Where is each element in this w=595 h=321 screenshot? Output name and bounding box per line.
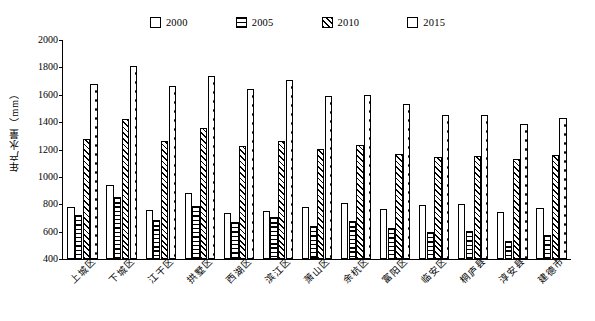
y-axis-tick-label: 800 — [43, 199, 58, 209]
bar-2000 — [419, 205, 426, 259]
bar-2005 — [114, 197, 121, 259]
y-axis-title: 年产水量（mm） — [9, 88, 25, 172]
bar-2000 — [67, 207, 74, 259]
bar-2010 — [552, 155, 559, 259]
bar-2015 — [286, 80, 293, 259]
bar-group — [219, 40, 258, 259]
bar-2000 — [536, 208, 543, 259]
x-axis-label-cell: 西湖区 — [218, 261, 257, 319]
bar-2010 — [317, 149, 324, 259]
bar-2015 — [247, 89, 254, 259]
x-axis-tick-label: 建德市 — [537, 256, 566, 285]
y-axis-tick-label: 2000 — [38, 35, 58, 45]
bar-group — [493, 40, 532, 259]
x-axis-label-cell: 下城区 — [101, 261, 140, 319]
x-axis-tick-label: 余杭区 — [342, 256, 371, 285]
x-axis-label-cell: 滨江区 — [257, 261, 296, 319]
x-axis-tick-label: 临安区 — [420, 256, 449, 285]
bar-2010 — [200, 128, 207, 259]
y-axis-tick-label: 1000 — [38, 172, 58, 182]
x-axis-label-cell: 淳安县 — [492, 261, 531, 319]
bar-2010 — [239, 146, 246, 259]
bar-group — [102, 40, 141, 259]
x-axis-label-cell: 余杭区 — [336, 261, 375, 319]
bar-2005 — [505, 241, 512, 259]
y-axis-tick-label: 1200 — [38, 145, 58, 155]
y-axis-tick-label: 1800 — [38, 62, 58, 72]
x-axis-tick-labels: 上城区下城区江干区拱墅区西湖区滨江区萧山区余杭区富阳区临安区桐庐县淳安县建德市 — [62, 261, 570, 319]
x-axis-label-cell: 临安区 — [414, 261, 453, 319]
bar-2010 — [278, 141, 285, 259]
bar-2000 — [263, 211, 270, 259]
bar-2000 — [106, 185, 113, 259]
bar-group — [63, 40, 102, 259]
bar-2000 — [185, 193, 192, 259]
x-axis-tick-label: 拱墅区 — [185, 256, 214, 285]
x-axis-tick-label: 桐庐县 — [459, 256, 488, 285]
plot-area — [62, 40, 571, 260]
bar-2005 — [544, 235, 551, 259]
y-axis-tick-mark — [59, 259, 63, 260]
x-axis-label-cell: 上城区 — [62, 261, 101, 319]
x-axis-tick-label: 滨江区 — [264, 256, 293, 285]
x-axis-tick-label: 萧山区 — [303, 256, 332, 285]
bar-group — [297, 40, 336, 259]
bar-2000 — [497, 212, 504, 259]
x-axis-tick-label: 西湖区 — [224, 256, 253, 285]
bar-group — [180, 40, 219, 259]
bar-2015 — [364, 95, 371, 259]
y-axis-tick-label: 1600 — [38, 90, 58, 100]
y-axis-tick-label: 600 — [43, 227, 58, 237]
bar-2005 — [231, 222, 238, 259]
bar-group — [141, 40, 180, 259]
y-axis-tick-labels: 200018001600140012001000800600400 — [26, 40, 58, 259]
bar-group — [454, 40, 493, 259]
bar-2010 — [161, 141, 168, 259]
bar-2005 — [153, 220, 160, 259]
bar-2005 — [270, 217, 277, 259]
bar-2005 — [310, 226, 317, 259]
bar-chart: 年产水量（mm） 2000180016001400120010008006004… — [0, 0, 595, 321]
bar-2010 — [83, 139, 90, 259]
bar-2015 — [520, 124, 527, 260]
bar-group — [337, 40, 376, 259]
bar-group — [532, 40, 571, 259]
x-axis-tick-label: 上城区 — [68, 256, 97, 285]
x-axis-label-cell: 建德市 — [531, 261, 570, 319]
bar-group — [415, 40, 454, 259]
bar-2015 — [559, 118, 566, 259]
y-axis-tick-label: 400 — [43, 254, 58, 264]
bar-2000 — [380, 209, 387, 259]
bar-2010 — [356, 145, 363, 259]
bar-2000 — [146, 210, 153, 259]
x-axis-label-cell: 拱墅区 — [179, 261, 218, 319]
bar-2005 — [349, 221, 356, 259]
bar-2015 — [403, 104, 410, 259]
x-axis-label-cell: 桐庐县 — [453, 261, 492, 319]
bar-2005 — [388, 228, 395, 259]
bar-2005 — [466, 231, 473, 259]
x-axis-tick-label: 江干区 — [146, 256, 175, 285]
bar-2010 — [513, 159, 520, 259]
bar-group — [258, 40, 297, 259]
bar-2000 — [302, 207, 309, 259]
x-axis-label-cell: 江干区 — [140, 261, 179, 319]
x-axis-label-cell: 萧山区 — [296, 261, 335, 319]
bar-2010 — [434, 157, 441, 259]
bar-2010 — [395, 154, 402, 259]
bar-2015 — [481, 115, 488, 259]
x-axis-tick-label: 淳安县 — [498, 256, 527, 285]
bar-group — [376, 40, 415, 259]
bar-2015 — [169, 86, 176, 259]
bar-groups — [63, 40, 571, 259]
bar-2005 — [75, 215, 82, 259]
bar-2010 — [122, 119, 129, 259]
bar-2005 — [427, 232, 434, 259]
x-axis-label-cell: 富阳区 — [375, 261, 414, 319]
bar-2005 — [192, 206, 199, 259]
bar-2000 — [224, 213, 231, 259]
y-axis-tick-label: 1400 — [38, 117, 58, 127]
bar-2015 — [325, 96, 332, 259]
x-axis-tick-label: 富阳区 — [381, 256, 410, 285]
bar-2015 — [208, 76, 215, 259]
